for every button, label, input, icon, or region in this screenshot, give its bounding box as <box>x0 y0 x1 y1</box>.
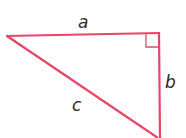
right-angle-marker <box>146 33 159 47</box>
label-b: b <box>165 72 176 92</box>
label-c: c <box>72 95 82 115</box>
label-a: a <box>78 12 88 32</box>
triangle-svg: a b c <box>0 0 186 138</box>
side-a-line <box>6 33 160 36</box>
side-b-line <box>159 33 160 138</box>
side-c-line <box>7 36 158 138</box>
right-triangle-diagram: a b c <box>0 0 186 138</box>
